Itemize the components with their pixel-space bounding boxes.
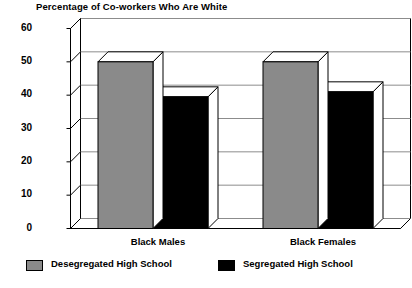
bar-side-face bbox=[208, 87, 218, 229]
legend-label: Desegregated High School bbox=[51, 258, 172, 269]
y-axis-tick-label: 0 bbox=[6, 222, 32, 233]
y-axis-tick-label: 50 bbox=[6, 55, 32, 66]
y-axis-tick-label: 20 bbox=[6, 155, 32, 166]
bar-side-face bbox=[373, 82, 383, 229]
bar-side-face bbox=[153, 52, 163, 229]
legend-label: Segregated High School bbox=[243, 258, 353, 269]
chart-legend: Desegregated High SchoolSegregated High … bbox=[0, 258, 412, 282]
x-axis-category-label: Black Females bbox=[263, 236, 383, 247]
y-axis-tick-label: 40 bbox=[6, 88, 32, 99]
bar-top-face bbox=[263, 52, 328, 62]
bar-front-face bbox=[263, 62, 318, 229]
legend-swatch-icon bbox=[218, 260, 235, 271]
y-axis-tick-label: 30 bbox=[6, 122, 32, 133]
bar-2 bbox=[263, 52, 328, 229]
bar-front-face bbox=[98, 62, 153, 229]
y-axis-tick-label: 10 bbox=[6, 188, 32, 199]
bar-chart: Percentage of Co-workers Who Are White 0… bbox=[0, 0, 412, 288]
bar-top-face bbox=[98, 52, 163, 62]
x-axis-category-label: Black Males bbox=[98, 236, 218, 247]
bar-side-face bbox=[318, 52, 328, 229]
y-axis-tick-label: 60 bbox=[6, 22, 32, 33]
legend-swatch-icon bbox=[26, 260, 43, 271]
bar-0 bbox=[98, 52, 163, 229]
